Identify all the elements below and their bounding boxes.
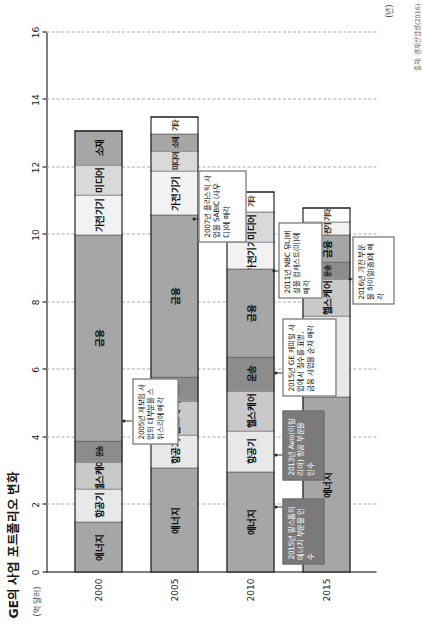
value-tick-mark	[42, 436, 46, 437]
bar-segment-label: 가전기기	[321, 221, 331, 235]
bar-segment-finance: 금융	[74, 235, 122, 441]
value-tick-label: 16	[30, 26, 40, 37]
bar-segment-appliance: 가전기기	[74, 194, 122, 235]
chart-screenshot: GE의 사업 포트폴리오 변화 (억 달러) (년) 출처: 경제산업성(201…	[0, 0, 423, 624]
bar-row: 에너지항공기헬스케어운송금융가전기기미디어기타	[226, 32, 274, 572]
bar-segment-label: 항공기	[243, 438, 257, 464]
bar-segment-label: 운송	[321, 265, 331, 276]
annotation-leader-line	[350, 278, 352, 279]
bar-segment-energy: 에너지	[150, 467, 198, 572]
bar-segment-label: 운송	[93, 445, 103, 456]
annotation-leader-line	[276, 506, 282, 507]
annotation-callout: 2016년 가전 부문을 하이얼(중)에 매각	[352, 236, 394, 304]
annotation-leader-line	[194, 218, 198, 219]
bar-segment-label: 미디어	[91, 166, 105, 192]
bar-segment-label: 기타	[245, 196, 255, 207]
value-tick-label: 0	[30, 569, 40, 575]
value-tick-mark	[42, 369, 46, 370]
value-tick-label: 2	[30, 502, 40, 508]
annotation-callout: 2011년 NBC 유니버설을 컴캐스트(미)에 매각	[278, 222, 322, 298]
value-tick-label: 10	[30, 229, 40, 240]
rotated-figure-canvas: GE의 사업 포트폴리오 변화 (억 달러) (년) 출처: 경제산업성(201…	[0, 0, 423, 624]
annotation-leader-line	[276, 372, 282, 373]
annotation-callout: 2007년 플라스틱 사업을 SABIC (사우디)에 매각	[198, 170, 246, 242]
bar-segment-material: 소재	[74, 130, 122, 164]
value-tick-label: 12	[30, 161, 40, 172]
category-tick-label: 2005	[169, 578, 179, 606]
bar-segment-healthcare: 헬스케어	[226, 390, 274, 431]
bar-segment-label: 미디어	[169, 152, 179, 169]
bar-segment-energy: 에너지	[226, 471, 274, 572]
category-tick-label: 2000	[93, 578, 103, 606]
bar-segment-other: 기타	[302, 208, 350, 222]
bar-segment-finance: 금융	[226, 268, 274, 356]
value-tick-mark	[42, 234, 46, 235]
bar-segment-label: 기타	[321, 209, 331, 220]
bar-segment-label: 가전기기	[91, 198, 105, 232]
bar-segment-media: 미디어	[74, 164, 122, 194]
annotation-leader-line	[274, 270, 278, 271]
bar-row: 에너지항공기헬스케어운송금융가전기기미디어소재기타	[150, 32, 198, 572]
bar-segment-aircraft: 항공기	[226, 430, 274, 471]
bar-segment-label: 가전기기	[167, 176, 181, 210]
value-tick-label: 8	[30, 299, 40, 305]
value-tick-mark	[42, 504, 46, 505]
bar-segment-label: 금융	[167, 287, 181, 304]
annotation-callout: 2005년 재보험 사업의 대부분을 스위스리에 매각	[132, 378, 178, 444]
value-tick-label: 14	[30, 94, 40, 105]
plot-area: 0246810121416 2000200520102015 에너지항공기헬스케…	[46, 32, 376, 572]
annotation-callout: 2015년 알스톰의 에너지 부문을 인수	[282, 498, 324, 564]
value-tick-mark	[42, 31, 46, 32]
bar-segment-transport: 운송	[226, 356, 274, 390]
bar-segment-label: 소재	[169, 137, 179, 148]
value-tick-label: 6	[30, 367, 40, 373]
annotation-leader-line	[276, 454, 282, 455]
bar-segment-appliance: 가전기기	[150, 170, 198, 214]
bar-row: 에너지항공기헬스케어운송금융가전기기기타	[302, 32, 350, 572]
annotation-leader-line	[124, 420, 132, 421]
bar-segment-label: 헬스케어	[243, 393, 257, 427]
bar-row: 에너지항공기헬스케어운송금융가전기기미디어소재	[74, 32, 122, 572]
bar-segment-label: 에너지	[91, 534, 105, 560]
value-tick-mark	[42, 571, 46, 572]
annotation-callout: 2015년 GE 캐피털 사업에서 철수를 표명, 금융 사업을 순차 매각	[282, 318, 336, 396]
bar-segment-label: 항공기	[91, 492, 105, 518]
bar-segment-energy: 에너지	[74, 521, 122, 572]
annotation-callout: 2013년 Avio(이탈리아) 항공 부문을 인수	[282, 410, 324, 480]
bar-segment-label: 운송	[243, 365, 257, 382]
bar-segment-label: 가전기기	[243, 241, 257, 268]
category-tick-label: 2010	[245, 578, 255, 606]
bar-segment-other: 기타	[150, 116, 198, 133]
source-note: 출처: 경제산업성(2016)	[411, 3, 421, 71]
bar-segment-material: 소재	[150, 133, 198, 150]
bar-segment-label: 금융	[91, 329, 105, 346]
value-tick-mark	[42, 301, 46, 302]
category-tick-label: 2015	[321, 578, 331, 606]
bar-segment-finance: 금융	[150, 214, 198, 376]
value-axis-unit-label: (억 달러)	[30, 586, 41, 616]
value-tick-mark	[42, 166, 46, 167]
category-axis-unit-label: (년)	[382, 4, 393, 17]
bar-segment-media: 미디어	[150, 150, 198, 170]
bar-segment-label: 헬스케어	[91, 461, 105, 488]
bar-segment-label: 소재	[91, 139, 105, 156]
bar-segment-appliance: 가전기기	[226, 241, 274, 268]
value-tick-mark	[42, 99, 46, 100]
bar-segment-aircraft: 항공기	[74, 488, 122, 522]
bar-segment-label: 기타	[169, 120, 179, 131]
chart-title: GE의 사업 포트폴리오 변화	[2, 471, 21, 618]
bar-segment-healthcare: 헬스케어	[74, 461, 122, 488]
value-tick-label: 4	[30, 434, 40, 440]
bar-segment-transport: 운송	[74, 440, 122, 460]
bar-segment-label: 에너지	[167, 507, 181, 533]
bar-segment-label: 금융	[243, 304, 257, 321]
bar-segment-label: 에너지	[243, 509, 257, 535]
